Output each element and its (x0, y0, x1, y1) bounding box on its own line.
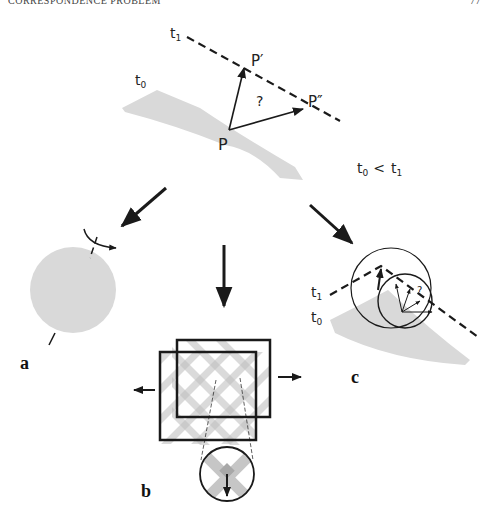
arrow-to-panel-c (310, 205, 352, 243)
panel-b-label: b (141, 481, 151, 501)
running-header-title: CORRESPONDENCE PROBLEM (8, 0, 161, 6)
t1-label-c: t1 (311, 284, 322, 302)
question-mark: ? (256, 93, 263, 109)
panel-b: b (60, 320, 330, 510)
grating-pattern-1 (60, 340, 330, 460)
vector-p-to-p-double-prime (229, 109, 303, 130)
t1-label: t1 (170, 25, 181, 43)
panel-c: ? t1 t0 c (311, 248, 478, 387)
arrow-to-panel-a (122, 188, 166, 226)
running-header-page-number: 77 (470, 0, 481, 6)
p-double-prime-label: P″ (308, 93, 323, 111)
p-prime-label: P′ (251, 52, 264, 70)
rotation-axis-bottom (49, 333, 55, 345)
question-mark-c: ? (417, 285, 422, 296)
panel-c-label: c (351, 367, 359, 387)
correspondence-diagram: CORRESPONDENCE PROBLEM 77 t1 t0 P′ P″ ? … (0, 0, 496, 518)
time-inequality: t0<t1 (357, 160, 402, 178)
vector-p-to-p-prime (229, 68, 244, 130)
top-panel: t1 t0 P′ P″ ? P t0<t1 (122, 25, 402, 180)
candidate-vectors (396, 284, 432, 312)
vector-c-normal (378, 269, 381, 290)
t0-label-c: t0 (311, 309, 323, 327)
panel-a-label: a (20, 353, 29, 373)
t0-label: t0 (135, 72, 147, 90)
rotation-arrow-icon (84, 229, 116, 248)
object-shape-t0 (122, 90, 303, 180)
p-label: P (218, 135, 228, 154)
panel-a: a (20, 229, 116, 373)
rotating-sphere (30, 247, 116, 333)
